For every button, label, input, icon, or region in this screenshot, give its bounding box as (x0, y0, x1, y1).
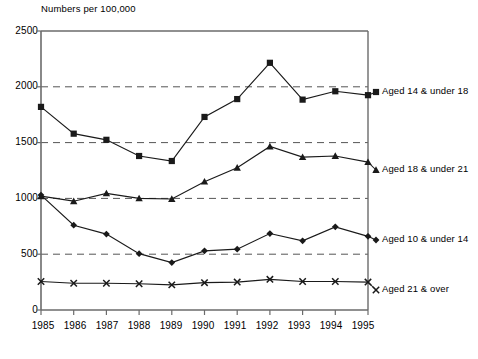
data-point-2-10 (365, 233, 372, 240)
data-point-0-10 (365, 92, 371, 98)
data-point-0-0 (38, 104, 44, 110)
data-point-0-2 (103, 137, 109, 143)
line-chart: Numbers per 100,000 2500 2000 1500 1000 … (0, 0, 478, 359)
data-point-0-3 (136, 153, 142, 159)
data-point-2-3 (136, 250, 143, 257)
plot-area (0, 0, 478, 359)
series-line-0 (41, 63, 368, 161)
data-point-2-9 (332, 223, 339, 230)
data-point-0-1 (71, 131, 77, 137)
data-point-2-7 (267, 230, 274, 237)
data-point-1-7 (266, 143, 273, 150)
data-point-2-2 (103, 231, 110, 238)
data-point-2-6 (234, 246, 241, 253)
data-point-0-4 (169, 158, 175, 164)
data-point-0-9 (332, 88, 338, 94)
data-point-0-7 (267, 60, 273, 66)
series-line-1 (41, 147, 368, 202)
legend-marker-2 (373, 237, 380, 244)
legend-marker-0 (373, 89, 379, 95)
data-point-0-6 (234, 96, 240, 102)
data-point-1-5 (201, 178, 208, 185)
data-point-1-6 (234, 164, 241, 171)
data-point-1-2 (103, 190, 110, 197)
data-point-2-8 (299, 237, 306, 244)
data-point-2-4 (168, 259, 175, 266)
data-point-0-8 (300, 97, 306, 103)
data-point-2-5 (201, 247, 208, 254)
data-point-0-5 (201, 114, 207, 120)
